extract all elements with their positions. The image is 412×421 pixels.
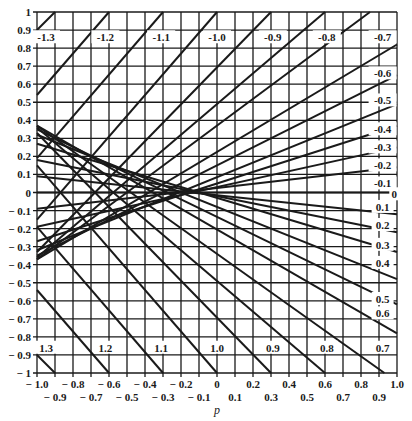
line-label: 0 (392, 188, 398, 200)
y-tick-label: − 0.8 (8, 331, 31, 343)
line-label: 0.3 (376, 239, 390, 251)
x-tick-label: 0.2 (246, 378, 260, 390)
y-tick-label: 0.4 (17, 114, 31, 126)
x-tick-label: 0.1 (228, 391, 242, 403)
line-label: 0.1 (376, 201, 390, 213)
series-line (37, 126, 384, 373)
line-label: -1.3 (37, 31, 55, 43)
y-tick-label: 0.5 (17, 96, 31, 108)
y-tick-label: 0.1 (17, 168, 31, 180)
line-label: -1.0 (208, 31, 226, 43)
line-label: 0.7 (376, 342, 390, 354)
y-tick-label: − 0.2 (8, 223, 31, 235)
line-label: -1.1 (152, 31, 169, 43)
x-tick-label: − 0.3 (152, 391, 175, 403)
x-tick-label: 0 (214, 378, 220, 390)
line-label: 0.2 (376, 219, 390, 231)
y-tick-label: − 0.5 (8, 277, 31, 289)
line-label: -0.2 (374, 159, 392, 171)
series-line (37, 12, 55, 30)
y-tick-label: − 0.7 (8, 313, 31, 325)
x-tick-label: − 1.0 (26, 378, 49, 390)
y-tick-label: − 0.4 (8, 259, 31, 271)
x-axis-tick-labels: − 1.0− 0.8− 0.6− 0.4− 0.200.20.40.60.81.… (26, 378, 405, 403)
line-label: 0.5 (376, 293, 390, 305)
x-tick-label: 0.7 (336, 391, 350, 403)
y-tick-label: 0 (26, 187, 32, 199)
x-tick-label: − 0.7 (80, 391, 103, 403)
y-tick-label: 1 (26, 6, 32, 18)
x-tick-label: 0.9 (372, 391, 386, 403)
line-label: -0.6 (374, 67, 392, 79)
line-label: 1.2 (99, 342, 113, 354)
x-tick-label: 1.0 (390, 378, 404, 390)
x-tick-label: 0.6 (318, 378, 332, 390)
y-tick-label: 0.7 (17, 60, 31, 72)
y-tick-label: 0.2 (17, 150, 31, 162)
chart: -1.3-1.2-1.1-1.0-0.9-0.8-0.7-0.6-0.5-0.4… (0, 0, 412, 421)
line-label: -0.4 (374, 123, 392, 135)
x-tick-label: − 0.8 (62, 378, 85, 390)
x-tick-label: − 0.9 (44, 391, 67, 403)
line-label: -0.9 (264, 31, 282, 43)
x-tick-label: − 0.1 (188, 391, 211, 403)
line-label: 1.3 (39, 342, 53, 354)
y-tick-label: − 0.3 (8, 241, 31, 253)
line-label: -0.7 (374, 31, 392, 43)
y-tick-label: 0.3 (17, 132, 31, 144)
y-tick-label: − 0.1 (8, 205, 31, 217)
line-label: -0.8 (318, 31, 336, 43)
x-tick-label: 0.4 (282, 378, 296, 390)
x-tick-label: − 0.6 (98, 378, 121, 390)
x-tick-label: − 0.5 (116, 391, 139, 403)
line-label: 0.4 (376, 257, 390, 269)
x-tick-label: 0.8 (354, 378, 368, 390)
line-label: 1.0 (210, 342, 224, 354)
x-axis-title: p (213, 403, 220, 417)
x-tick-label: 0.3 (264, 391, 278, 403)
x-tick-label: − 0.2 (170, 378, 193, 390)
y-tick-label: 0.8 (17, 42, 31, 54)
line-label: -0.3 (374, 141, 392, 153)
y-tick-label: 0.6 (17, 78, 31, 90)
line-label: 0.6 (376, 307, 390, 319)
y-tick-label: 0.9 (17, 24, 31, 36)
y-tick-label: − 0.6 (8, 295, 31, 307)
y-axis-tick-labels: 10.90.80.70.60.50.40.30.20.10− 0.1− 0.2−… (8, 6, 31, 379)
x-tick-label: 0.5 (300, 391, 314, 403)
y-tick-label: − 0.9 (8, 349, 31, 361)
series-line (37, 355, 55, 373)
line-label: 1.1 (154, 342, 168, 354)
line-label: -0.5 (374, 94, 392, 106)
line-label: 0.9 (266, 342, 280, 354)
line-label: -1.2 (97, 31, 115, 43)
x-tick-label: − 0.4 (134, 378, 157, 390)
line-label: -0.1 (374, 177, 391, 189)
line-label: 0.8 (320, 342, 334, 354)
